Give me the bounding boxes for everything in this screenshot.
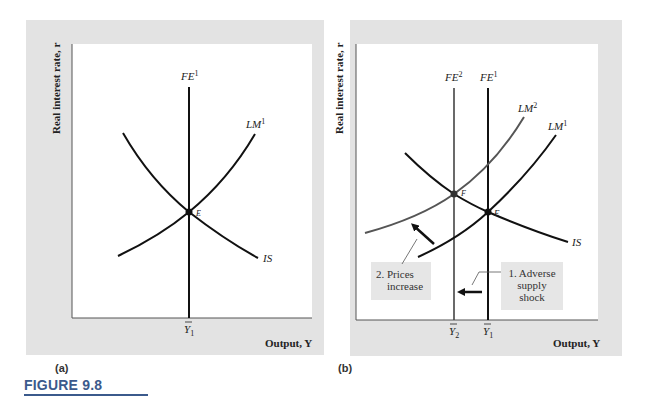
figure-title: FIGURE 9.8 bbox=[24, 377, 102, 393]
panel-b-point-e bbox=[485, 209, 492, 216]
panel-a-tick-y1: Y1 bbox=[184, 322, 194, 338]
panel-a-tick-y1-label: Y1 bbox=[184, 323, 194, 338]
panel-b-tick-y1: Y1 bbox=[483, 324, 493, 340]
panel-b-fe1-label: FE1 bbox=[479, 70, 497, 83]
panel-b-point-f-label: F bbox=[460, 189, 466, 198]
panel-b-lm2-curve bbox=[365, 117, 524, 233]
panel-a-is-label: IS bbox=[262, 252, 273, 264]
panel-a-point-e bbox=[186, 209, 193, 216]
panel-b-tick-y2-label: Y2 bbox=[449, 325, 459, 340]
panel-b-point-f bbox=[451, 191, 458, 198]
panel-b-point-e-label: E bbox=[493, 208, 500, 218]
figure-title-rule bbox=[24, 394, 148, 396]
panel-b-axes bbox=[356, 44, 598, 320]
diagram-svg: FE1 LM1 IS E Y1 FE2 FE1 LM2 LM1 IS F E Y… bbox=[0, 0, 648, 398]
prices-increase-leader bbox=[402, 239, 417, 264]
panel-b-is-label: IS bbox=[571, 236, 582, 248]
panel-a-point-e-label: E bbox=[195, 209, 201, 218]
panel-b-fe2-label: FE2 bbox=[444, 70, 462, 83]
panel-b-tick-y1-label: Y1 bbox=[483, 325, 493, 340]
panel-b-tag: (b) bbox=[338, 362, 352, 374]
panel-a-lm1-curve bbox=[118, 134, 255, 256]
panel-b-lm1-label: LM1 bbox=[547, 119, 567, 132]
panel-a-lm1-label: LM1 bbox=[245, 117, 265, 130]
panel-a-fe1-label: FE1 bbox=[180, 69, 198, 82]
panel-b-tick-y2: Y2 bbox=[449, 324, 459, 340]
panel-a-tag: (a) bbox=[55, 362, 68, 374]
panel-a-is-curve bbox=[123, 133, 258, 258]
prices-increase-arrow bbox=[414, 226, 434, 244]
panel-b-lm2-label: LM2 bbox=[517, 101, 537, 114]
supply-shock-leader bbox=[472, 272, 501, 285]
panel-a-axes bbox=[72, 44, 312, 318]
